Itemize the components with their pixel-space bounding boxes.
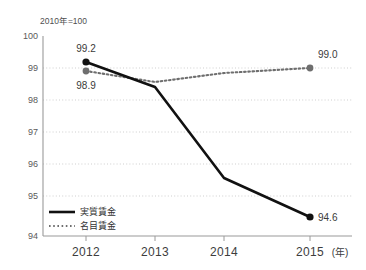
y-label-95: 95 <box>28 191 38 201</box>
x-label-2015: 2015 <box>296 245 324 259</box>
label-real-2015: 94.6 <box>318 212 338 223</box>
legend-label-nominal-wage: 名目賃金 <box>80 220 116 231</box>
x-axis-unit: (年) <box>332 246 349 258</box>
label-nominal-2015: 99.0 <box>318 49 338 60</box>
real-point-2012 <box>82 58 89 65</box>
chart-canvas: 2010年=100 100 99 98 97 96 95 94 <box>0 0 366 270</box>
x-label-2014: 2014 <box>210 245 238 259</box>
chart-legend: 実質賃金 名目賃金 <box>45 203 123 233</box>
legend-label-real-wage: 実質賃金 <box>80 206 116 217</box>
label-real-2012: 99.2 <box>76 43 96 54</box>
wage-index-line-chart: 2010年=100 100 99 98 97 96 95 94 <box>0 0 366 270</box>
x-label-2013: 2013 <box>141 245 169 259</box>
y-label-98: 98 <box>28 95 38 105</box>
real-point-2015 <box>306 213 313 220</box>
y-label-96: 96 <box>28 159 38 169</box>
y-label-97: 97 <box>28 127 38 137</box>
y-label-94: 94 <box>28 231 38 241</box>
y-label-99: 99 <box>28 63 38 73</box>
y-label-100: 100 <box>23 31 38 41</box>
nominal-point-2012 <box>83 68 90 75</box>
nominal-point-2015 <box>307 65 314 72</box>
x-label-2012: 2012 <box>72 245 100 259</box>
unit-note: 2010年=100 <box>40 16 87 26</box>
label-nominal-2012: 98.9 <box>76 80 96 91</box>
